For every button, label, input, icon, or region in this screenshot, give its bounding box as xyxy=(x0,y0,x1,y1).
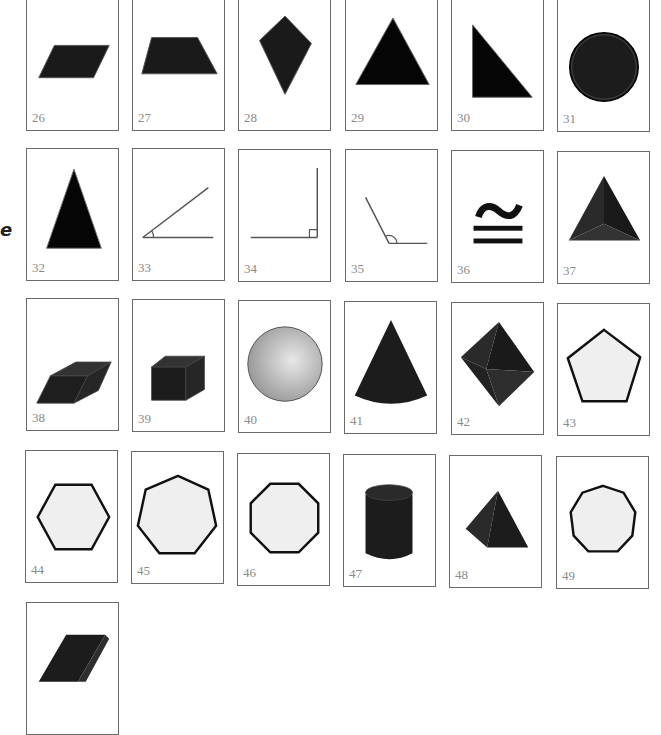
card-number: 47 xyxy=(349,566,362,582)
card-trapezoid: 27 xyxy=(132,0,225,131)
card-number: 44 xyxy=(31,562,44,578)
card-number: 37 xyxy=(563,263,576,279)
card-triangular-pyramid: 37 xyxy=(557,151,650,284)
card-number: 38 xyxy=(32,410,45,426)
card-hexagon: 44 xyxy=(25,450,118,583)
card-right-angle: 34 xyxy=(238,149,331,282)
card-number: 42 xyxy=(457,414,470,430)
card-rectangular-prism xyxy=(26,602,119,735)
card-number: 48 xyxy=(455,567,468,583)
card-sphere: 40 xyxy=(238,300,331,433)
card-number: 32 xyxy=(32,260,45,276)
card-triangle: 29 xyxy=(345,0,438,131)
card-number: 43 xyxy=(563,415,576,431)
card-number: 31 xyxy=(563,111,576,127)
card-parallelepiped: 38 xyxy=(26,298,119,431)
rectangular-prism-icon xyxy=(27,603,118,734)
card-number: 46 xyxy=(243,565,256,581)
card-obtuse-angle: 35 xyxy=(345,149,438,282)
card-square-pyramid: 48 xyxy=(449,455,542,588)
card-number: 27 xyxy=(138,110,151,126)
card-right-triangle: 30 xyxy=(451,0,544,131)
card-number: 35 xyxy=(351,261,364,277)
card-number: 26 xyxy=(32,110,45,126)
card-octagon: 46 xyxy=(237,453,330,586)
card-number: 29 xyxy=(351,110,364,126)
card-cone: 41 xyxy=(344,301,437,434)
card-isosceles-triangle: 32 xyxy=(26,148,119,281)
card-cylinder: 47 xyxy=(343,454,436,587)
card-number: 39 xyxy=(138,411,151,427)
card-parallelogram: 26 xyxy=(26,0,119,131)
card-heptagon: 45 xyxy=(131,451,224,584)
card-number: 40 xyxy=(244,412,257,428)
card-number: 36 xyxy=(457,262,470,278)
card-number: 45 xyxy=(137,563,150,579)
card-number: 41 xyxy=(350,413,363,429)
card-number: 49 xyxy=(562,568,575,584)
card-kite: 28 xyxy=(238,0,331,131)
card-octahedron: 42 xyxy=(451,302,544,435)
side-marker-text: e xyxy=(0,219,12,240)
card-cube: 39 xyxy=(132,299,225,432)
card-number: 28 xyxy=(244,110,257,126)
card-number: 34 xyxy=(244,261,257,277)
card-nonagon: 49 xyxy=(556,456,649,589)
card-number: 30 xyxy=(457,110,470,126)
card-pentagon: 43 xyxy=(557,303,650,436)
card-circle: 31 xyxy=(557,0,650,132)
card-number: 33 xyxy=(138,260,151,276)
card-acute-angle: 33 xyxy=(132,148,225,281)
card-congruent-symbol: 36 xyxy=(451,150,544,283)
